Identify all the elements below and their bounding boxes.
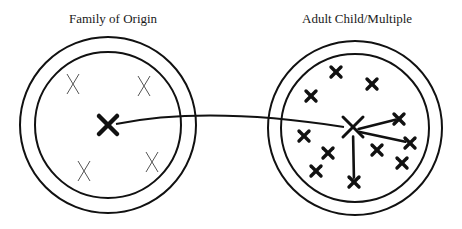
- alter-marker: [311, 166, 321, 176]
- origin-member-marker: [67, 74, 79, 94]
- alter-marker: [372, 145, 382, 155]
- alter-marker: [299, 131, 309, 141]
- alter-marker: [367, 79, 377, 89]
- alter-marker: [306, 91, 316, 101]
- origin-member-marker: [146, 152, 158, 172]
- alter-marker: [331, 67, 341, 77]
- alter-marker: [405, 138, 415, 148]
- alter-connector-line: [360, 132, 406, 142]
- connection-line: [116, 116, 344, 127]
- alter-connector-line: [359, 120, 396, 129]
- adult-child-group: [268, 41, 442, 215]
- adult-self-marker: [343, 117, 363, 137]
- family-diagram: [0, 0, 462, 229]
- alter-marker: [397, 158, 407, 168]
- origin-member-marker: [138, 76, 150, 96]
- origin-member-marker: [78, 161, 90, 181]
- lineage-link-curve: [116, 116, 344, 127]
- origin-self-marker: [99, 116, 117, 134]
- family-of-origin-group: [20, 37, 196, 213]
- alter-connector-line: [353, 137, 354, 178]
- alter-marker: [323, 148, 333, 158]
